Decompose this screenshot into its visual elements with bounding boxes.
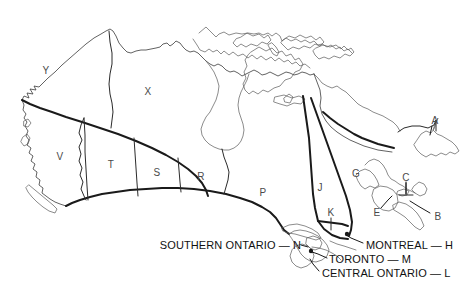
k-region-border [318, 221, 348, 226]
newfoundland-label-box [398, 120, 436, 132]
province-border-t-s [134, 138, 138, 196]
callout-southern-ontario: SOUTHERN ONTARIO — N [160, 239, 301, 251]
island-sliver-north [274, 95, 305, 106]
manitoba-ontario-border [222, 149, 229, 194]
callout-montreal: MONTREAL — H [366, 239, 453, 251]
leader-line-toronto [312, 252, 327, 258]
toronto-point [309, 249, 313, 253]
st-lawrence-river [330, 241, 356, 250]
region-label-k: K [328, 207, 335, 218]
region-label-p: P [260, 187, 267, 198]
callout-central-ontario: CENTRAL ONTARIO — L [322, 267, 450, 279]
labrador-boundary-heavy [323, 112, 394, 148]
leader-line-central-ontario [310, 259, 319, 271]
mainland-north-coast [22, 29, 314, 100]
region-label-c: C [402, 172, 409, 183]
vancouver-island [26, 185, 57, 213]
arctic-island-east [281, 35, 324, 50]
region-label-x: X [145, 86, 152, 97]
montreal-point [345, 232, 349, 236]
leader-line-region-e [381, 196, 392, 208]
arctic-island-west [199, 27, 352, 53]
canada-region-map: Y X V T S R P J K G A C E B SOUTHERN ONT… [0, 0, 470, 286]
leader-line-region-b [410, 201, 430, 213]
region-label-a: A [432, 115, 439, 126]
province-border-v-t [84, 118, 88, 200]
region-label-t: T [108, 159, 114, 170]
region-label-g: G [352, 168, 360, 179]
region-label-r: R [197, 171, 204, 182]
callout-toronto: TORONTO — M [329, 253, 411, 265]
region-label-s: S [154, 167, 161, 178]
region-label-y: Y [43, 65, 50, 76]
region-label-j: J [317, 182, 322, 193]
region-label-b: B [435, 211, 442, 222]
hudson-bay-outline [201, 61, 249, 150]
arctic-island-mid [233, 33, 271, 47]
yukon-nwt-border [109, 31, 113, 128]
ontario-quebec-border [303, 96, 348, 239]
cape-breton-island [412, 182, 427, 196]
region-label-v: V [57, 151, 64, 162]
nova-scotia-outline [393, 202, 424, 230]
region-label-e: E [374, 207, 381, 218]
usa-border-49th-parallel [66, 188, 289, 234]
arctic-coast-lower [193, 39, 310, 68]
